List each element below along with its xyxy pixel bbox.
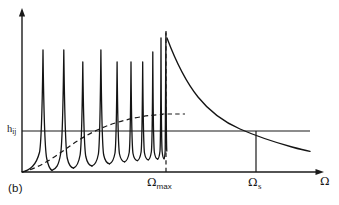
- resonance-spike: [92, 50, 110, 166]
- omega-max-symbol: Ω: [147, 175, 157, 189]
- resonance-spike: [110, 62, 125, 164]
- omega-axis-symbol: Ω: [320, 174, 330, 188]
- resonance-spike: [74, 62, 93, 168]
- y-axis-arrow-icon: [19, 8, 25, 17]
- resonance-spike: [22, 50, 52, 172]
- panel-label: (b): [8, 183, 23, 195]
- resonance-spike: [137, 62, 148, 161]
- h-ij-label-subscript: ij: [12, 127, 16, 136]
- omega-s-symbol: Ω: [248, 175, 258, 189]
- figure-panel-b: hij Ωmax Ωs Ω (b): [0, 0, 339, 205]
- resonance-spike: [52, 50, 74, 170]
- omega-max-subscript: max: [157, 182, 172, 191]
- h-ij-axis-label: hij: [7, 124, 16, 135]
- omega-s-tick-label: Ωs: [248, 177, 261, 189]
- x-axis-label: Ω: [320, 176, 330, 188]
- resonance-spike: [148, 52, 157, 160]
- omega-s-subscript: s: [258, 181, 262, 191]
- resonance-spike: [158, 38, 164, 159]
- omega-max-tick-label: Ωmax: [147, 177, 172, 189]
- resonance-spikes-group: [22, 33, 167, 172]
- resonance-spectrum-plot: [0, 0, 339, 205]
- resonance-spike: [125, 62, 138, 162]
- decaying-branch-group: [167, 38, 310, 151]
- decaying-branch-curve: [167, 38, 310, 151]
